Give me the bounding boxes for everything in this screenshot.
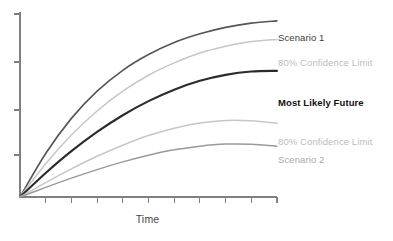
series-curves-group <box>20 21 277 197</box>
scenario-funnel-chart: Scenario 1 80% Confidence Limit Most Lik… <box>0 0 393 241</box>
series-curve-1 <box>20 39 277 197</box>
chart-plot-area <box>0 0 393 241</box>
series-label-scenario-1: Scenario 1 <box>278 33 324 43</box>
x-axis-title: Time <box>0 213 295 225</box>
y-axis-ticks <box>14 14 20 155</box>
series-label-confidence-lower: 80% Confidence Limit <box>278 137 372 147</box>
series-curve-4 <box>20 144 277 197</box>
series-label-confidence-upper: 80% Confidence Limit <box>278 58 372 68</box>
series-curve-0 <box>20 21 277 197</box>
x-axis-ticks <box>46 197 277 203</box>
series-label-most-likely-future: Most Likely Future <box>278 98 364 108</box>
series-curve-3 <box>20 120 277 197</box>
series-label-scenario-2: Scenario 2 <box>278 155 324 165</box>
axes-group <box>14 12 277 203</box>
